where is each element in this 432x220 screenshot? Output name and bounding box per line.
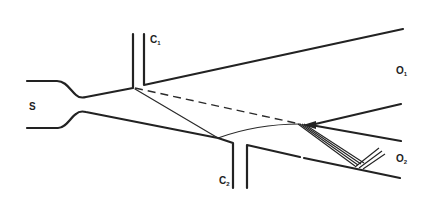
label-source: S [29,102,36,112]
control-port-1-right-wall [144,29,403,85]
label-control-1: C1 [150,35,161,46]
label-output-2: O2 [396,154,407,165]
label-output-1-sub: 1 [404,71,407,77]
jet-reattachment-curve [218,124,300,138]
label-source-text: S [29,101,36,112]
nozzle-lower-wall [27,111,233,188]
label-output-2-sub: 2 [404,159,407,165]
label-control-1-sub: 1 [157,40,160,46]
flow-splitter-upper-arm [311,104,401,125]
fluidic-diagram [0,0,432,220]
control-port-2-right-wall [247,145,300,188]
label-control-2-sub: 2 [226,181,229,187]
label-control-2: C2 [219,176,230,187]
label-output-1: O1 [396,66,407,77]
undeflected-jet-path [135,88,300,124]
label-output-1-text: O [396,65,404,76]
label-output-2-text: O [396,153,404,164]
nozzle-upper-wall [27,34,133,98]
